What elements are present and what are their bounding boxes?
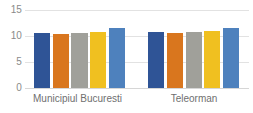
bar-group-municipiul-bucuresti — [34, 10, 133, 88]
x-axis-label-teleorman: Teleorman — [148, 93, 240, 105]
bar-group-teleorman — [148, 10, 247, 88]
bar-3-teleorman — [186, 32, 202, 88]
x-axis-label-municipiul-bucuresti: Municipiul Bucuresti — [25, 93, 130, 105]
bar-4-teleorman — [204, 31, 220, 88]
bar-1-teleorman — [148, 32, 164, 88]
plot-area — [25, 10, 249, 88]
bar-chart: 15 10 5 0 Municipiul Bucuresti Teleorman — [0, 0, 253, 113]
y-axis-tick-0: 0 — [0, 83, 22, 93]
bar-2-teleorman — [167, 33, 183, 88]
y-axis-tick-15: 15 — [0, 5, 22, 15]
bar-5-municipiul-bucuresti — [109, 28, 125, 88]
gridline-0-baseline — [25, 88, 249, 89]
bar-1-municipiul-bucuresti — [34, 33, 50, 88]
bar-3-municipiul-bucuresti — [71, 33, 87, 88]
bar-2-municipiul-bucuresti — [53, 34, 69, 88]
y-axis-tick-5: 5 — [0, 57, 22, 67]
y-axis-tick-10: 10 — [0, 31, 22, 41]
bar-5-teleorman — [223, 28, 239, 88]
bar-4-municipiul-bucuresti — [90, 32, 106, 88]
